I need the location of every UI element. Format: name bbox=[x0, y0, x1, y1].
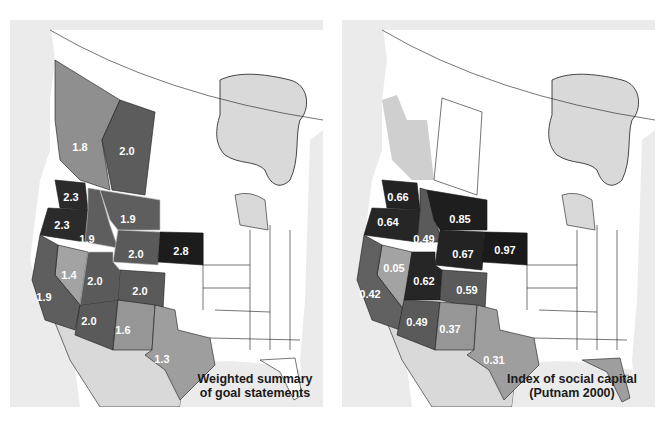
region-alberta bbox=[434, 98, 482, 195]
value-idaho: 0.49 bbox=[413, 233, 434, 245]
value-british-columbia: 1.8 bbox=[72, 141, 87, 153]
value-wyoming: 0.67 bbox=[452, 248, 473, 260]
map-canvas: 1.8 2.0 2.3 2.3 1.9 1.9 2.0 2.8 1.4 1.9 … bbox=[10, 20, 323, 407]
value-new-mexico: 0.37 bbox=[439, 323, 460, 335]
value-new-mexico: 1.6 bbox=[115, 324, 130, 336]
value-colorado: 0.59 bbox=[456, 284, 477, 296]
caption-line-2: (Putnam 2000) bbox=[492, 386, 652, 400]
value-texas: 1.3 bbox=[154, 353, 169, 365]
value-nevada: 0.05 bbox=[383, 262, 404, 274]
value-utah: 0.62 bbox=[413, 275, 434, 287]
caption-line-2: of goal statements bbox=[180, 386, 323, 400]
caption-line-1: Weighted summary bbox=[180, 372, 323, 386]
value-texas: 0.31 bbox=[483, 354, 504, 366]
value-washington: 2.3 bbox=[63, 191, 78, 203]
value-colorado: 2.0 bbox=[132, 285, 147, 297]
value-arizona: 2.0 bbox=[81, 315, 96, 327]
value-montana: 0.85 bbox=[449, 213, 470, 225]
value-washington: 0.66 bbox=[387, 191, 408, 203]
map-social-capital: 0.66 0.64 0.49 0.85 0.67 0.97 0.05 0.42 … bbox=[342, 20, 655, 407]
caption-line-1: Index of social capital bbox=[492, 372, 652, 386]
value-utah: 2.0 bbox=[87, 275, 102, 287]
map-canvas: 0.66 0.64 0.49 0.85 0.67 0.97 0.05 0.42 … bbox=[342, 20, 655, 407]
value-wyoming: 2.0 bbox=[128, 248, 143, 260]
value-south-dakota: 2.8 bbox=[173, 245, 188, 257]
value-arizona: 0.49 bbox=[406, 316, 427, 328]
value-alberta: 2.0 bbox=[119, 145, 134, 157]
value-south-dakota: 0.97 bbox=[494, 244, 515, 256]
value-oregon: 2.3 bbox=[54, 219, 69, 231]
map-caption: Index of social capital (Putnam 2000) bbox=[492, 372, 652, 400]
map-goal-statements: 1.8 2.0 2.3 2.3 1.9 1.9 2.0 2.8 1.4 1.9 … bbox=[10, 20, 323, 407]
value-oregon: 0.64 bbox=[377, 216, 399, 228]
value-california: 0.42 bbox=[359, 288, 380, 300]
value-montana: 1.9 bbox=[120, 213, 135, 225]
value-nevada: 1.4 bbox=[61, 269, 77, 281]
map-caption: Weighted summary of goal statements bbox=[180, 372, 323, 400]
value-idaho: 1.9 bbox=[79, 233, 94, 245]
value-california: 1.9 bbox=[36, 291, 51, 303]
